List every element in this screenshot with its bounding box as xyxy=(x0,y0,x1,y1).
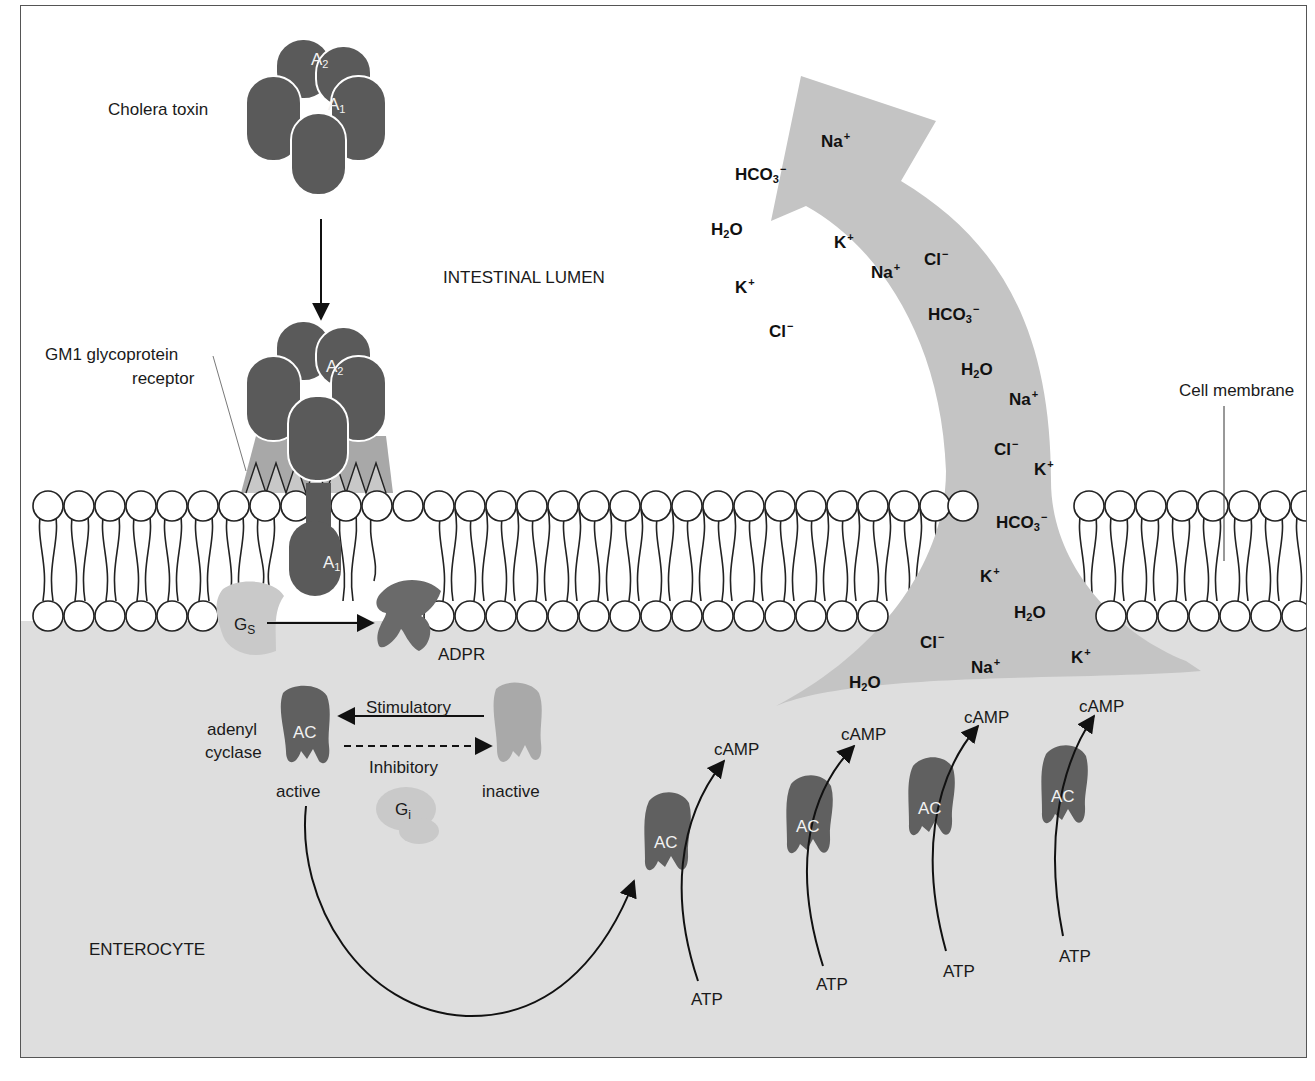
ion-label: H2O xyxy=(711,221,743,240)
ion-label: Na+ xyxy=(1009,391,1038,408)
ion-label: Cl− xyxy=(920,634,944,651)
ion-label: K+ xyxy=(1034,461,1054,478)
atp-label: ATP xyxy=(816,976,848,993)
ion-label: HCO3− xyxy=(928,306,979,325)
ac-active-label: AC xyxy=(293,724,317,741)
ion-label: HCO3− xyxy=(996,514,1047,533)
atp-label: ATP xyxy=(1059,948,1091,965)
a1-label-bound: A1 xyxy=(323,554,340,573)
ion-label: HCO3− xyxy=(735,166,786,185)
receptor-label-line1: GM1 glycoprotein xyxy=(45,346,178,363)
ac-unit-label: AC xyxy=(1051,788,1075,805)
a2-label-bound: A2 xyxy=(326,358,343,377)
a2-label-free: A2 xyxy=(311,51,328,70)
atp-label: ATP xyxy=(691,991,723,1008)
enterocyte-label: ENTEROCYTE xyxy=(89,941,205,958)
ion-label: H2O xyxy=(849,674,881,693)
active-label: active xyxy=(276,783,320,800)
adenyl-label: adenyl xyxy=(207,721,257,738)
gi-label: Gi xyxy=(395,801,411,821)
cholera-toxin-label: Cholera toxin xyxy=(108,101,208,118)
ac-unit-label: AC xyxy=(796,818,820,835)
ac-unit-label: AC xyxy=(918,800,942,817)
ac-inactive-shape xyxy=(494,683,542,762)
diagram-frame: Cholera toxin A2 A1 GM1 glycoprotein rec… xyxy=(20,5,1307,1058)
ion-label: K+ xyxy=(1071,649,1091,666)
receptor-label-line2: receptor xyxy=(132,370,194,387)
ion-label: K+ xyxy=(834,234,854,251)
lumen-label: INTESTINAL LUMEN xyxy=(443,269,605,286)
camp-label: cAMP xyxy=(964,709,1009,726)
cell-membrane-label: Cell membrane xyxy=(1179,382,1294,399)
stimulatory-label: Stimulatory xyxy=(366,699,451,716)
cyclase-label: cyclase xyxy=(205,744,262,761)
camp-label: cAMP xyxy=(1079,698,1124,715)
camp-label: cAMP xyxy=(714,741,759,758)
ion-label: H2O xyxy=(961,361,993,380)
ac-unit-label: AC xyxy=(654,834,678,851)
ion-label: Cl− xyxy=(994,441,1018,458)
ion-label: Na+ xyxy=(821,133,850,150)
ion-label: Na+ xyxy=(971,659,1000,676)
ion-label: Na+ xyxy=(871,264,900,281)
adpr-label: ADPR xyxy=(438,646,485,663)
camp-label: cAMP xyxy=(841,726,886,743)
ion-label: K+ xyxy=(735,279,755,296)
ion-label: Cl− xyxy=(924,251,948,268)
ion-label: H2O xyxy=(1014,604,1046,623)
a1-label-free: A1 xyxy=(328,96,345,115)
inhibitory-label: Inhibitory xyxy=(369,759,438,776)
atp-label: ATP xyxy=(943,963,975,980)
ion-label: K+ xyxy=(980,568,1000,585)
gs-label: GS xyxy=(234,616,255,636)
receptor-pointer xyxy=(213,356,246,471)
lipid-heads-upper xyxy=(33,491,1307,521)
inactive-label: inactive xyxy=(482,783,540,800)
ion-label: Cl− xyxy=(769,323,793,340)
diagram-canvas xyxy=(21,6,1307,1058)
